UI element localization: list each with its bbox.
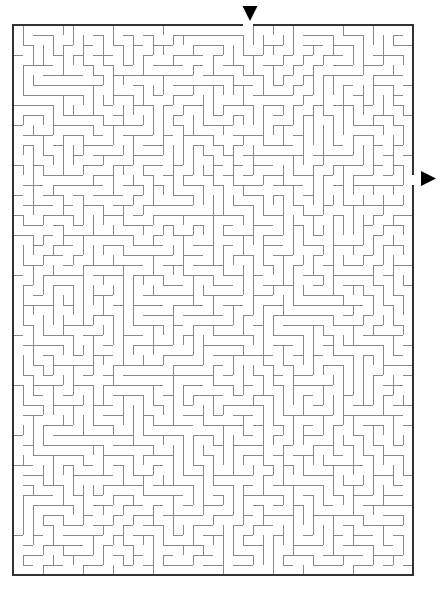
maze-page <box>0 0 447 592</box>
maze-canvas <box>0 0 447 592</box>
